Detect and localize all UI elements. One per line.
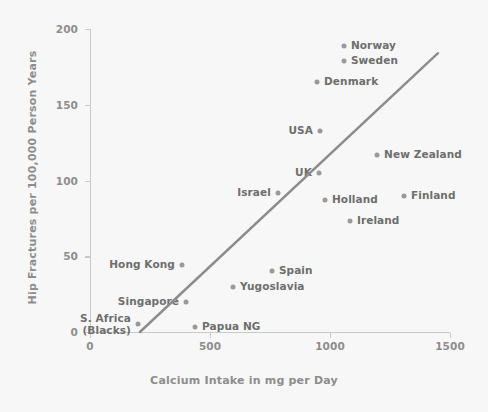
trend-line [0,0,488,412]
x-axis-title: Calcium Intake in mg per Day [0,374,488,387]
y-axis-title: Hip Fractures per 100,000 Person Years [26,28,39,328]
scatter-plot-figure: 050010001500050100150200 NorwaySwedenDen… [0,0,488,412]
